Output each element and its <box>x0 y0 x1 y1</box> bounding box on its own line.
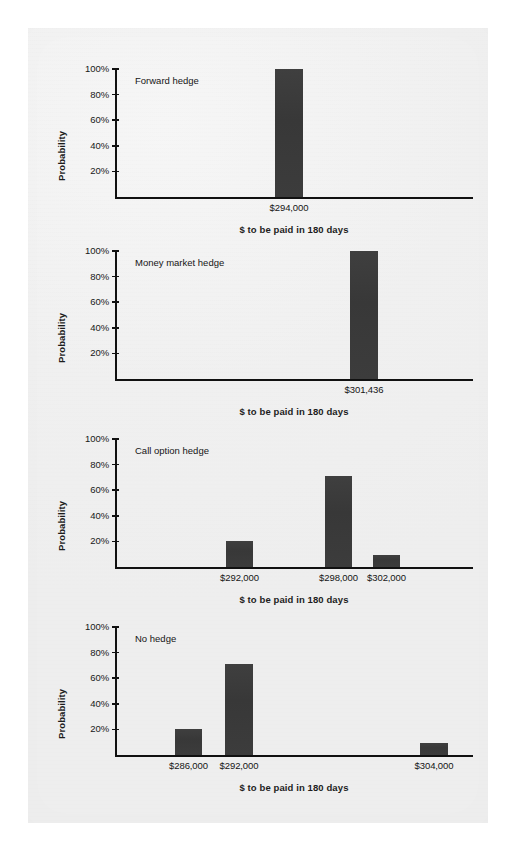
x-axis-line <box>115 755 473 757</box>
plot-area: Probability20%40%60%80%100%Call option h… <box>28 410 488 610</box>
y-tick-label: 100% <box>67 63 109 74</box>
bar <box>373 555 400 567</box>
chart-title: No hedge <box>135 633 176 644</box>
y-tick-label: 100% <box>67 621 109 632</box>
scanned-page-sheet: Probability20%40%60%80%100%Forward hedge… <box>28 28 488 823</box>
y-tick-label: 40% <box>67 322 109 333</box>
bar <box>325 476 352 567</box>
bar <box>226 541 253 567</box>
y-tick-label: 100% <box>67 433 109 444</box>
y-tick-label: 20% <box>67 535 109 546</box>
bar-chart: Probability20%40%60%80%100%No hedge$286,… <box>28 598 488 798</box>
plot-area: Probability20%40%60%80%100%No hedge$286,… <box>28 598 488 798</box>
chart-title: Call option hedge <box>135 445 209 456</box>
y-tick-label: 40% <box>67 510 109 521</box>
y-tick-label: 40% <box>67 698 109 709</box>
y-tick-label: 80% <box>67 89 109 100</box>
y-tick-label: 60% <box>67 114 109 125</box>
x-category-label: $292,000 <box>204 572 276 583</box>
plot-area: Probability20%40%60%80%100%Money market … <box>28 222 488 422</box>
x-axis-line <box>115 197 473 199</box>
y-tick-label: 60% <box>67 296 109 307</box>
y-tick-label: 40% <box>67 140 109 151</box>
y-axis-line <box>115 69 117 199</box>
y-tick-label: 80% <box>67 647 109 658</box>
y-tick-label: 60% <box>67 484 109 495</box>
y-axis-line <box>115 627 117 757</box>
y-tick-label: 20% <box>67 165 109 176</box>
bar-chart: Probability20%40%60%80%100%Money market … <box>28 222 488 422</box>
bar <box>420 743 448 755</box>
bar <box>275 69 303 197</box>
chart-title: Forward hedge <box>135 75 199 86</box>
x-axis-line <box>115 379 473 381</box>
bar <box>225 664 253 755</box>
bar <box>350 251 378 379</box>
bar-chart: Probability20%40%60%80%100%Call option h… <box>28 410 488 610</box>
y-tick-label: 20% <box>67 347 109 358</box>
bar <box>175 729 202 755</box>
x-category-label: $294,000 <box>253 202 325 213</box>
y-axis-line <box>115 251 117 381</box>
x-category-label: $302,000 <box>351 572 423 583</box>
y-axis-title: Probability <box>56 689 67 739</box>
y-tick-label: 80% <box>67 271 109 282</box>
x-axis-title: $ to be paid in 180 days <box>115 782 473 793</box>
x-category-label: $301,436 <box>328 384 400 395</box>
bar-chart: Probability20%40%60%80%100%Forward hedge… <box>28 40 488 240</box>
x-axis-line <box>115 567 473 569</box>
y-tick-label: 20% <box>67 723 109 734</box>
x-category-label: $292,000 <box>203 760 275 771</box>
plot-area: Probability20%40%60%80%100%Forward hedge… <box>28 40 488 240</box>
chart-title: Money market hedge <box>135 257 224 268</box>
y-tick-label: 80% <box>67 459 109 470</box>
y-tick-label: 100% <box>67 245 109 256</box>
y-axis-title: Probability <box>56 501 67 551</box>
x-category-label: $304,000 <box>398 760 470 771</box>
y-axis-line <box>115 439 117 569</box>
y-tick-label: 60% <box>67 672 109 683</box>
y-axis-title: Probability <box>56 131 67 181</box>
y-axis-title: Probability <box>56 313 67 363</box>
